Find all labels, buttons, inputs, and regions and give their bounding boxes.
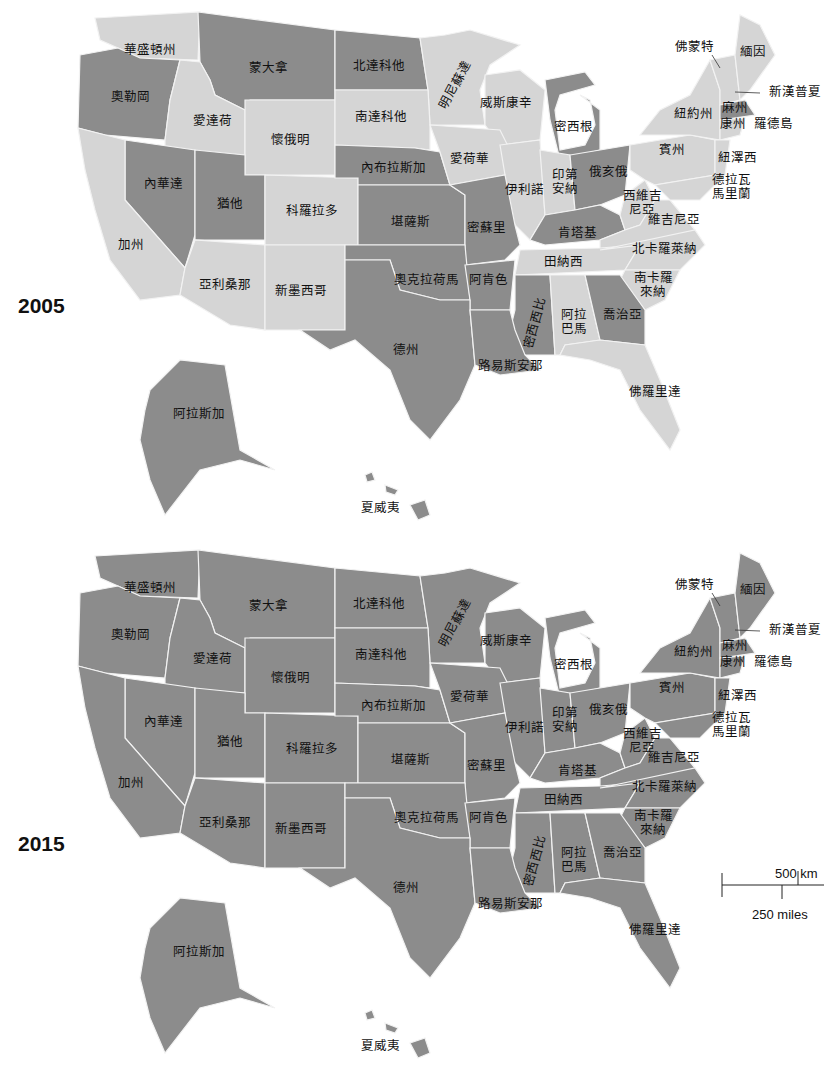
label-me: 緬因 (740, 45, 766, 59)
label-wa: 華盛頓州 (124, 581, 176, 595)
label-ma: 麻州 (722, 639, 748, 653)
label-nj: 紐澤西 (718, 689, 757, 703)
label-il: 伊利諾 (505, 721, 544, 735)
label-ok: 奧克拉荷馬 (394, 273, 459, 287)
label-ar: 阿肯色 (469, 811, 508, 825)
label-ut: 猶他 (217, 197, 243, 211)
label-ar: 阿肯色 (469, 273, 508, 287)
label-ga: 喬治亞 (603, 308, 642, 322)
label-nj: 紐澤西 (718, 151, 757, 165)
label-wy: 懷俄明 (271, 133, 310, 147)
state-hi (410, 1038, 430, 1058)
label-sd: 南達科他 (355, 110, 407, 124)
label-wi: 威斯康辛 (480, 96, 532, 110)
label-tx: 德州 (393, 343, 419, 357)
label-mo: 密蘇里 (467, 221, 506, 235)
map-2005: 2005 華盛頓州 奧勒岡 蒙大拿 北達科他 明尼蘇達 愛達荷 懷俄明 南達科他… (0, 0, 834, 530)
label-tn: 田納西 (544, 255, 583, 269)
label-tx: 德州 (393, 881, 419, 895)
map-2015: 2015 華盛頓州 奧勒岡 蒙大拿 北達科他 明尼蘇達 愛達荷 懷俄明 南達科他… (0, 538, 834, 1068)
label-ky: 肯塔基 (558, 764, 597, 778)
label-id: 愛達荷 (193, 114, 232, 128)
label-or: 奧勒岡 (111, 628, 150, 642)
label-hi: 夏威夷 (361, 501, 400, 515)
state-hi (410, 500, 430, 520)
label-sc: 南卡羅 來納 (634, 271, 673, 299)
label-wa: 華盛頓州 (124, 43, 176, 57)
label-co: 科羅拉多 (286, 742, 338, 756)
label-ca: 加州 (118, 238, 144, 252)
label-in: 印第 安納 (552, 706, 578, 734)
label-la: 路易斯安那 (478, 897, 543, 911)
state-ak (140, 898, 275, 1053)
label-ia: 愛荷華 (450, 690, 489, 704)
label-ny: 紐約州 (674, 107, 713, 121)
label-ia: 愛荷華 (450, 152, 489, 166)
state-mi (545, 72, 600, 160)
label-ks: 堪薩斯 (391, 215, 430, 229)
label-ak: 阿拉斯加 (173, 945, 225, 959)
label-fl: 佛羅里達 (629, 385, 681, 399)
label-or: 奧勒岡 (111, 90, 150, 104)
year-label-2005: 2005 (18, 294, 65, 318)
label-ny: 紐約州 (674, 645, 713, 659)
label-az: 亞利桑那 (199, 278, 251, 292)
label-va: 維吉尼亞 (648, 751, 700, 765)
scale-km-label: 500 km (775, 866, 818, 881)
label-ma: 麻州 (722, 101, 748, 115)
label-in: 印第 安納 (552, 168, 578, 196)
label-nh: 新漢普夏 (769, 85, 821, 99)
label-ky: 肯塔基 (558, 226, 597, 240)
state-mi (545, 610, 600, 698)
label-ak: 阿拉斯加 (173, 407, 225, 421)
label-nm: 新墨西哥 (275, 822, 327, 836)
label-vt: 佛蒙特 (675, 578, 714, 592)
label-ga: 喬治亞 (603, 846, 642, 860)
label-id: 愛達荷 (193, 652, 232, 666)
label-mt: 蒙大拿 (249, 599, 288, 613)
label-ri: 羅德島 (754, 117, 793, 131)
state-hi-islands (365, 472, 375, 482)
label-sd: 南達科他 (355, 648, 407, 662)
us-map-2005 (0, 0, 834, 530)
label-de-md: 德拉瓦 馬里蘭 (712, 711, 751, 739)
label-nv: 內華達 (144, 715, 183, 729)
label-nm: 新墨西哥 (275, 284, 327, 298)
label-oh: 俄亥俄 (589, 703, 628, 717)
label-ct: 康州 (720, 655, 746, 669)
state-ny (640, 598, 720, 678)
label-il: 伊利諾 (505, 183, 544, 197)
label-ok: 奧克拉荷馬 (394, 811, 459, 825)
label-co: 科羅拉多 (286, 204, 338, 218)
label-ne: 內布拉斯加 (361, 699, 426, 713)
label-ri: 羅德島 (754, 655, 793, 669)
state-hi-islands-2 (385, 485, 398, 495)
label-fl: 佛羅里達 (629, 923, 681, 937)
label-al: 阿拉 巴馬 (561, 308, 587, 336)
year-label-2015: 2015 (18, 832, 65, 856)
label-al: 阿拉 巴馬 (561, 846, 587, 874)
label-va: 維吉尼亞 (648, 213, 700, 227)
label-mo: 密蘇里 (467, 759, 506, 773)
label-pa: 賓州 (659, 143, 685, 157)
state-hi-islands (365, 1010, 375, 1020)
label-wi: 威斯康辛 (480, 634, 532, 648)
label-nd: 北達科他 (353, 59, 405, 73)
label-nh: 新漢普夏 (769, 623, 821, 637)
label-sc: 南卡羅 來納 (634, 809, 673, 837)
label-nv: 內華達 (144, 177, 183, 191)
label-wy: 懷俄明 (271, 671, 310, 685)
label-ct: 康州 (720, 117, 746, 131)
label-tn: 田納西 (544, 793, 583, 807)
label-mi: 密西根 (554, 658, 593, 672)
label-az: 亞利桑那 (199, 816, 251, 830)
label-ca: 加州 (118, 776, 144, 790)
label-me: 緬因 (740, 583, 766, 597)
label-nc: 北卡羅萊納 (632, 242, 697, 256)
label-ks: 堪薩斯 (391, 753, 430, 767)
label-ne: 內布拉斯加 (361, 161, 426, 175)
label-hi: 夏威夷 (361, 1039, 400, 1053)
label-ut: 猶他 (217, 735, 243, 749)
label-nc: 北卡羅萊納 (632, 780, 697, 794)
label-nd: 北達科他 (353, 597, 405, 611)
